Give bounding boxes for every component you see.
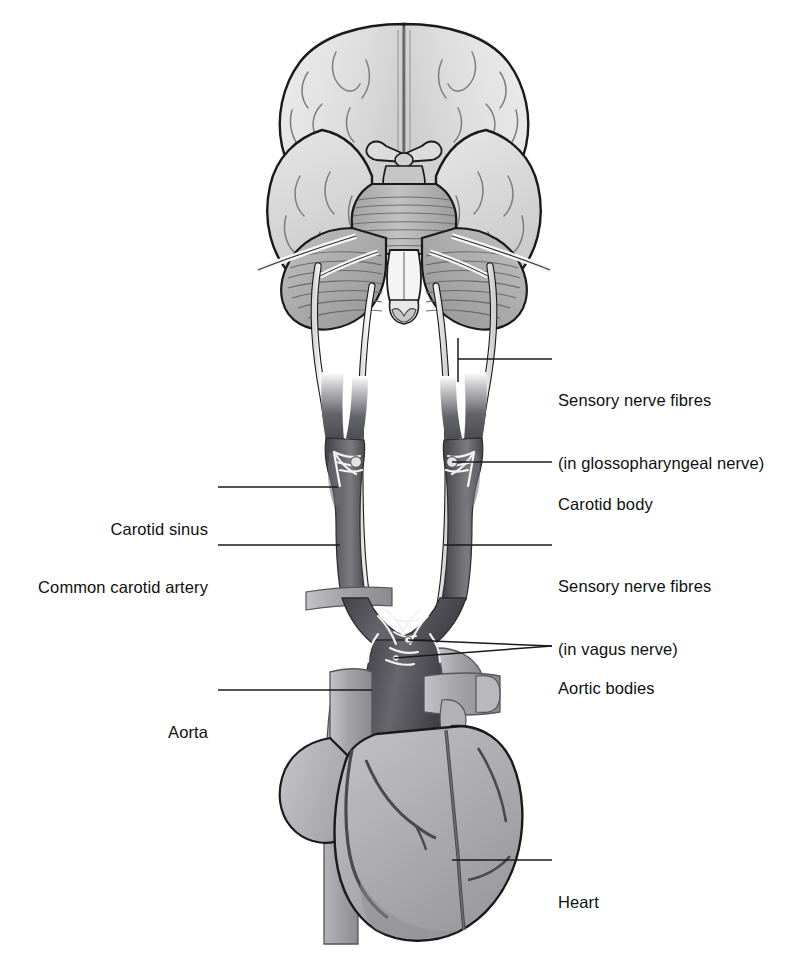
carotid-arteries [321, 372, 487, 600]
label-aortic-bodies: Aortic bodies [558, 636, 655, 741]
label-heart: Heart [558, 850, 599, 955]
label-line-1: Aortic bodies [558, 678, 655, 699]
brain-group [267, 24, 541, 330]
label-line-1: Carotid body [558, 494, 653, 515]
label-line-1: Common carotid artery [0, 577, 208, 598]
label-line-1: Sensory nerve fibres [558, 576, 711, 597]
label-aorta: Aorta [0, 680, 208, 785]
label-line-1: Heart [558, 892, 599, 913]
carotid-body-nodule-left [351, 457, 362, 468]
label-line-1: Sensory nerve fibres [558, 390, 764, 411]
anatomy-figure: Sensory nerve fibres (in glossopharyngea… [0, 0, 808, 965]
label-line-1: Aorta [0, 722, 208, 743]
heart-group [280, 726, 523, 941]
label-common-carotid-artery: Common carotid artery [0, 535, 208, 640]
